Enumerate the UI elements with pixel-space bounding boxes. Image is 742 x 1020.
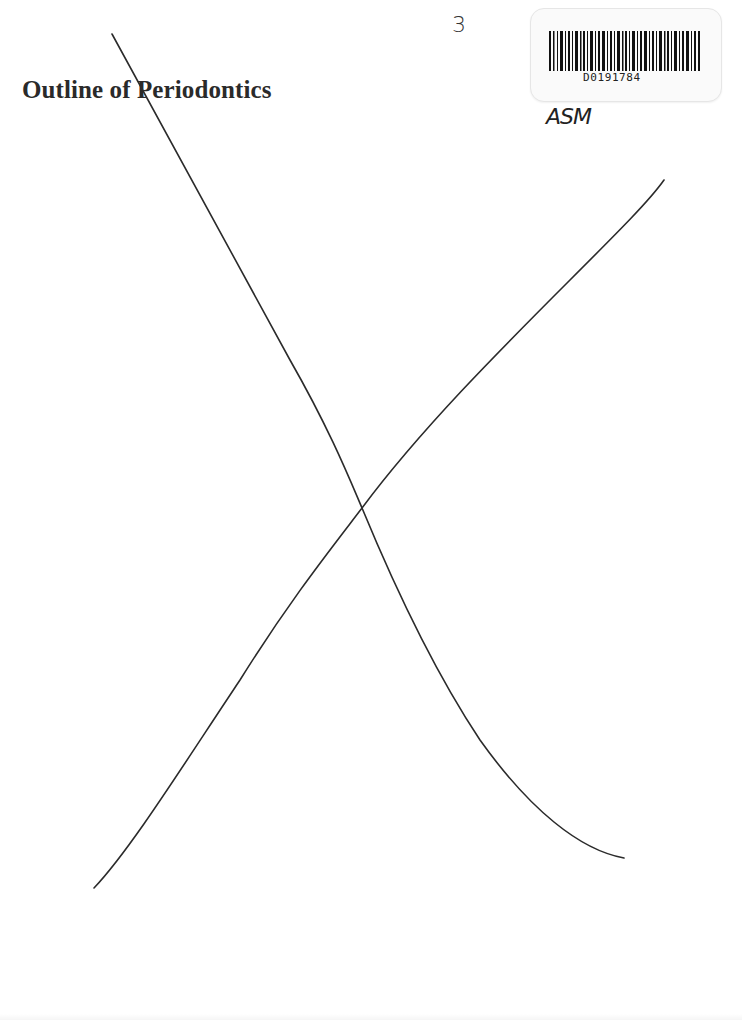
cross-stroke-descending — [112, 34, 624, 858]
document-title: Outline of Periodontics — [22, 76, 272, 104]
barcode-icon — [549, 31, 701, 71]
barcode-number: D0191784 — [583, 71, 641, 84]
cross-stroke-ascending — [94, 180, 664, 888]
document-page: 3 — [0, 0, 742, 1020]
barcode-sticker: D0191784 — [530, 8, 722, 102]
scan-edge-shade — [0, 1014, 742, 1020]
cross-out-mark — [0, 0, 742, 1020]
handwritten-page-number: 3 — [452, 12, 466, 37]
handwritten-initials: ASM — [546, 104, 591, 129]
